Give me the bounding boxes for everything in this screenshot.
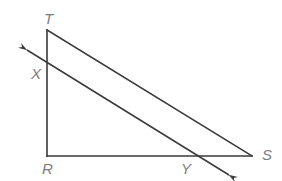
- triangle-RTS: [47, 30, 252, 156]
- point-label-X: X: [30, 65, 42, 82]
- point-label-Y: Y: [181, 160, 192, 177]
- vertex-label-S: S: [262, 146, 272, 163]
- figure-canvas: T X R Y S: [0, 0, 282, 181]
- vertex-label-T: T: [44, 10, 55, 27]
- segment-TS: [47, 30, 252, 156]
- vertex-label-R: R: [42, 160, 53, 177]
- geometry-figure: T X R Y S: [0, 0, 282, 181]
